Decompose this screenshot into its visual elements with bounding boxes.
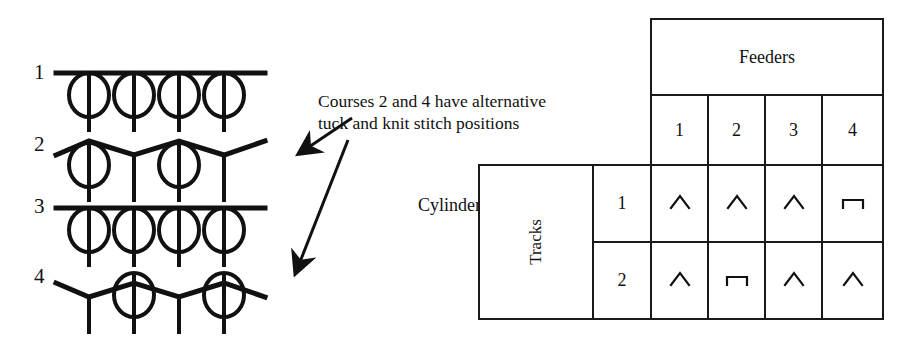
course-4-yarn-line [56, 283, 265, 297]
track-number-label-1: 1 [618, 193, 627, 214]
feeder-column-label-4: 4 [848, 120, 857, 141]
knit-cam-symbol [842, 271, 864, 290]
cam-cell-track1-feeder1 [650, 164, 709, 243]
feeders-header-label: Feeders [739, 47, 795, 68]
knitting-notation-figure: 1 2 3 4 [0, 0, 904, 346]
feeder-column-label-1: 1 [675, 120, 684, 141]
knit-cam-symbol [783, 271, 805, 290]
courses-svg [0, 0, 320, 346]
track-number-label-2: 2 [618, 270, 627, 291]
knit-cam-symbol [783, 194, 805, 213]
cam-arrangement-table: Feeders 1 2 3 4 Tracks 1 2 [650, 18, 884, 320]
feeder-column-header-1: 1 [650, 94, 709, 166]
feeder-column-header-2: 2 [707, 94, 766, 166]
cam-cell-track2-feeder2 [707, 241, 766, 320]
course-4-group [56, 273, 265, 332]
tracks-header-cell: Tracks [478, 164, 594, 320]
feeder-column-header-4: 4 [821, 94, 884, 166]
cam-cell-track2-feeder4 [821, 241, 884, 320]
feeder-column-label-2: 2 [732, 120, 741, 141]
annotation-text: Courses 2 and 4 have alternative tuck an… [318, 90, 618, 134]
tuck-cam-symbol [724, 272, 750, 290]
cam-cell-track1-feeder3 [764, 164, 823, 243]
cylinder-label: Cylinder [418, 195, 481, 216]
track-number-cell-1: 1 [592, 164, 652, 243]
feeder-column-header-3: 3 [764, 94, 823, 166]
cam-cell-track2-feeder1 [650, 241, 709, 320]
stitch-notation-diagram: 1 2 3 4 [0, 0, 320, 346]
course-1-loops [69, 73, 244, 130]
cam-cell-track1-feeder2 [707, 164, 766, 243]
course-1-group [56, 73, 265, 130]
annotation-line-2: tuck and knit stitch positions [318, 112, 618, 134]
annotation-line-1: Courses 2 and 4 have alternative [318, 90, 618, 112]
cam-cell-track1-feeder4 [821, 164, 884, 243]
track-number-cell-2: 2 [592, 241, 652, 320]
knit-cam-symbol [669, 271, 691, 290]
knit-cam-symbol [726, 194, 748, 213]
course-3-loops [69, 208, 244, 265]
cam-cell-track2-feeder3 [764, 241, 823, 320]
tuck-cam-symbol [840, 195, 866, 213]
feeders-header-cell: Feeders [650, 18, 884, 96]
tracks-header-label: Tracks [526, 219, 546, 265]
course-3-group [56, 208, 265, 265]
course-2-group [56, 141, 265, 200]
knit-cam-symbol [669, 194, 691, 213]
feeder-column-label-3: 3 [789, 120, 798, 141]
